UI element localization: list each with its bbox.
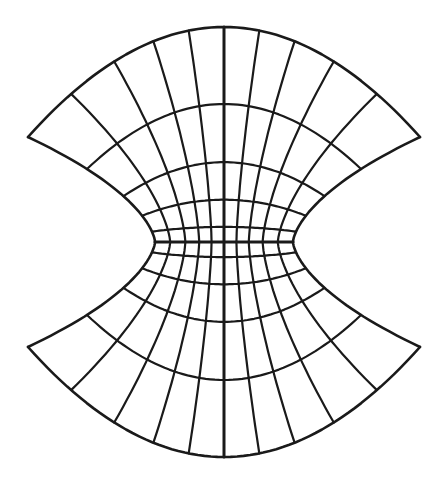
mesh-diagram: [0, 0, 444, 479]
mesh-lines: [28, 27, 420, 457]
